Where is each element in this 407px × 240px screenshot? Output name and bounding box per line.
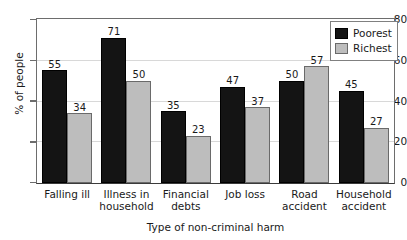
bar: 45 bbox=[339, 91, 364, 183]
bar-chart: % of people 020406080 553471503523473750… bbox=[0, 0, 407, 240]
legend-label: Poorest bbox=[353, 28, 392, 39]
x-category-line: Falling ill bbox=[38, 188, 97, 200]
bar: 35 bbox=[161, 111, 186, 182]
bar-group: 7150 bbox=[97, 20, 156, 183]
x-category-line: household bbox=[97, 200, 156, 212]
x-category-line: accident bbox=[334, 200, 393, 212]
bar-value-label: 37 bbox=[251, 97, 264, 107]
bar-value-label: 50 bbox=[286, 70, 299, 80]
x-category-label: Financialdebts bbox=[156, 188, 215, 212]
bar: 23 bbox=[186, 136, 211, 183]
bar-value-label: 23 bbox=[192, 125, 205, 135]
bar-group: 5057 bbox=[275, 20, 334, 183]
x-category-line: debts bbox=[156, 200, 215, 212]
bar-group: 4737 bbox=[216, 20, 275, 183]
legend-label: Richest bbox=[353, 43, 392, 54]
x-category-label: Job loss bbox=[216, 188, 275, 200]
bar-group: 5534 bbox=[38, 20, 97, 183]
bar-value-label: 71 bbox=[108, 27, 121, 37]
x-category-line: Road bbox=[275, 188, 334, 200]
bar-value-label: 50 bbox=[133, 70, 146, 80]
bar-value-label: 57 bbox=[311, 56, 324, 66]
legend-item: Richest bbox=[335, 41, 392, 56]
bar: 34 bbox=[67, 113, 92, 182]
bar-value-label: 45 bbox=[345, 80, 358, 90]
bar: 47 bbox=[220, 87, 245, 183]
bar: 71 bbox=[101, 38, 126, 183]
bar: 37 bbox=[245, 107, 270, 182]
x-category-label: Householdaccident bbox=[334, 188, 393, 212]
x-axis-title: Type of non-criminal harm bbox=[36, 222, 395, 233]
x-axis-categories: Falling illIllness inhouseholdFinanciald… bbox=[38, 188, 394, 218]
bar: 55 bbox=[42, 70, 67, 182]
legend: PoorestRichest bbox=[330, 21, 398, 61]
bar-value-label: 35 bbox=[167, 101, 180, 111]
x-category-label: Roadaccident bbox=[275, 188, 334, 212]
legend-item: Poorest bbox=[335, 26, 392, 41]
x-category-line: Job loss bbox=[216, 188, 275, 200]
x-category-line: Illness in bbox=[97, 188, 156, 200]
x-category-label: Falling ill bbox=[38, 188, 97, 200]
bar: 50 bbox=[126, 81, 151, 183]
bar-value-label: 34 bbox=[73, 103, 86, 113]
bar-group: 3523 bbox=[156, 20, 215, 183]
y-axis-title: % of people bbox=[14, 24, 25, 144]
bar: 50 bbox=[279, 81, 304, 183]
legend-swatch-richest bbox=[335, 43, 348, 54]
bar-value-label: 47 bbox=[226, 76, 239, 86]
x-category-line: Household bbox=[334, 188, 393, 200]
bar: 27 bbox=[364, 128, 389, 183]
bar-value-label: 55 bbox=[48, 60, 61, 70]
bar: 57 bbox=[304, 66, 329, 182]
bar-value-label: 27 bbox=[370, 117, 383, 127]
x-category-line: Financial bbox=[156, 188, 215, 200]
x-category-line: accident bbox=[275, 200, 334, 212]
x-category-label: Illness inhousehold bbox=[97, 188, 156, 212]
legend-swatch-poorest bbox=[335, 28, 348, 39]
